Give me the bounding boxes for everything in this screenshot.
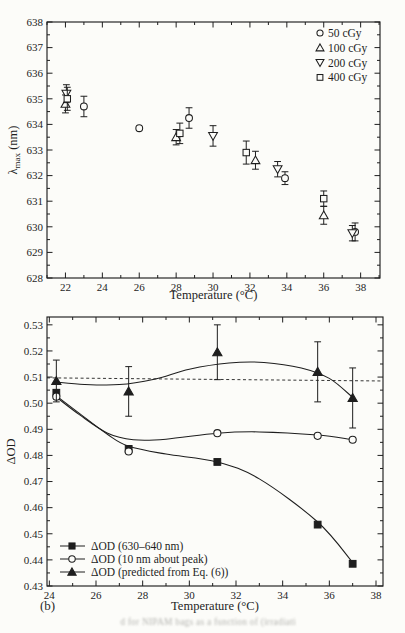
x-tick-label: 26 [134, 281, 146, 293]
y-tick-label: 0.51 [24, 371, 43, 383]
fit-curve [54, 395, 353, 440]
triangle-up-marker [213, 348, 222, 356]
triangle-down-marker [316, 60, 324, 67]
triangle-down-marker [209, 133, 218, 141]
y-tick-label: 0.47 [24, 475, 44, 487]
y-tick-label: 0.43 [24, 580, 44, 592]
y-tick-label: 636 [27, 67, 44, 79]
circle-marker [186, 115, 193, 122]
y-tick-label: 631 [27, 195, 44, 207]
circle-marker [125, 448, 132, 455]
y-tick-label: 0.45 [24, 528, 44, 540]
legend-label: 50 cGy [328, 27, 362, 40]
circle-marker [282, 175, 289, 182]
square-marker [69, 543, 75, 549]
square-marker [317, 75, 323, 81]
triangle-up-marker [251, 156, 260, 164]
figure-two-panel-chart: 2224262830323436386286296306316326336346… [0, 0, 405, 633]
y-tick-label: 628 [27, 272, 44, 284]
square-marker [314, 521, 321, 528]
y-tick-label: 634 [27, 118, 44, 130]
y-tick-label: 0.44 [24, 554, 44, 566]
square-marker [214, 459, 221, 466]
circle-marker [136, 125, 143, 132]
y-axis-label: λmax (nm) [6, 126, 22, 175]
square-marker [349, 560, 356, 567]
circle-marker [80, 103, 87, 110]
triangle-down-marker [273, 166, 282, 174]
x-tick-label: 36 [324, 589, 336, 601]
x-tick-label: 36 [318, 281, 330, 293]
y-tick-label: 629 [27, 246, 44, 258]
delta-od-vs-temperature-chart: 24262830323436380.430.440.450.460.470.48… [0, 303, 405, 617]
x-axis-label: Temperature (°C) [170, 288, 258, 302]
y-tick-label: 0.53 [24, 319, 44, 331]
y-tick-label: 0.49 [24, 423, 44, 435]
circle-marker [317, 30, 323, 36]
panel-label-b: (b) [40, 598, 55, 614]
x-tick-label: 28 [137, 589, 149, 601]
x-tick-label: 34 [281, 281, 293, 293]
triangle-up-marker [316, 44, 324, 51]
y-tick-label: 0.52 [24, 345, 43, 357]
square-marker [321, 195, 327, 201]
legend-label: ΔOD (630–640 nm) [91, 540, 184, 553]
y-tick-label: 630 [27, 221, 44, 233]
y-tick-label: 637 [27, 41, 44, 53]
caption-fragment: d for NIPAM bags as a function of (irrad… [18, 617, 398, 632]
y-tick-label: 0.48 [24, 449, 44, 461]
x-tick-label: 22 [60, 281, 71, 293]
legend-label: ΔOD (predicted from Eq. (6)) [91, 566, 229, 579]
square-marker [243, 149, 249, 155]
triangle-up-marker [124, 387, 133, 395]
x-tick-label: 34 [277, 589, 289, 601]
x-tick-label: 38 [355, 281, 367, 293]
circle-marker [69, 556, 75, 562]
y-tick-label: 0.46 [24, 501, 44, 513]
x-tick-label: 38 [371, 589, 383, 601]
lambda-max-vs-temperature-chart: 2224262830323436386286296306316326336346… [0, 0, 405, 303]
triangle-up-marker [319, 211, 328, 219]
y-tick-label: 632 [27, 169, 44, 181]
square-marker [177, 130, 183, 136]
legend-label: 400 cGy [328, 71, 368, 84]
x-axis-label: Temperature (°C) [171, 599, 259, 613]
y-tick-label: 0.50 [24, 397, 44, 409]
legend-label: ΔOD (10 nm about peak) [91, 553, 208, 566]
y-tick-label: 638 [27, 16, 44, 28]
y-tick-label: 635 [27, 93, 44, 105]
circle-marker [314, 432, 321, 439]
y-tick-label: 633 [27, 144, 44, 156]
circle-marker [214, 430, 221, 437]
square-marker [64, 96, 70, 102]
legend-label: 100 cGy [328, 42, 368, 55]
x-tick-label: 24 [97, 281, 109, 293]
y-axis-label: ΔOD [4, 438, 18, 464]
legend-label: 200 cGy [328, 57, 368, 70]
fit-curve [54, 362, 353, 397]
x-tick-label: 26 [91, 589, 103, 601]
fit-curve [54, 394, 353, 563]
circle-marker [349, 436, 356, 443]
